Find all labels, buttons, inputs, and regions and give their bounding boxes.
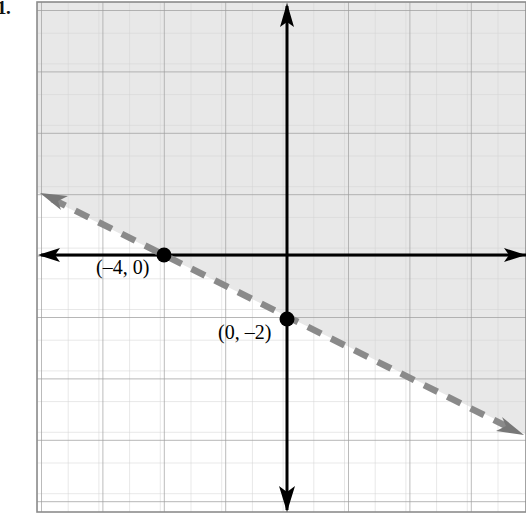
problem-number-label: 1.: [0, 0, 10, 18]
point-label-x-intercept: (–4, 0): [96, 257, 149, 277]
coordinate-plane: [0, 0, 526, 520]
point-x-intercept: [157, 248, 172, 263]
graph-figure: 1.: [0, 0, 526, 520]
point-label-y-intercept: (0, –2): [218, 322, 271, 342]
point-y-intercept: [280, 312, 295, 327]
